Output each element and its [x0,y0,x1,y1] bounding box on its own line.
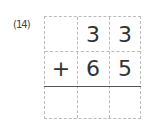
cell-r1-c3: 3 [109,17,141,51]
problem-number: (14) [13,19,30,30]
answer-cell-3[interactable] [109,86,141,120]
answer-cell-2[interactable] [77,86,109,120]
cell-r2-c2: 6 [77,51,109,85]
cell-r1-c1 [45,17,77,51]
cell-r1-c2: 3 [77,17,109,51]
addition-grid: 3 3 + 6 5 [44,16,141,119]
answer-cell-1[interactable] [45,86,77,120]
plus-sign: + [45,51,77,85]
cell-r2-c3: 5 [109,51,141,85]
